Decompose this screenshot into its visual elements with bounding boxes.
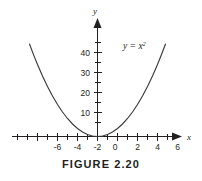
curve-equation-exponent: 2 <box>143 40 147 47</box>
x-tick-label-neg4: -4 <box>74 142 82 152</box>
y-tick-label-30: 30 <box>81 68 91 78</box>
x-tick-label-4: 4 <box>155 142 160 152</box>
curve-equation-base: y = x <box>122 41 143 51</box>
figure-caption: FIGURE 2.20 <box>0 158 202 170</box>
curve-equation-label: y = x2 <box>122 40 147 51</box>
y-tick-label-20: 20 <box>81 88 91 98</box>
y-axis-arrow-icon <box>94 18 102 28</box>
x-axis-label: x <box>186 132 191 142</box>
plot-area: -6 -4 -2 0 2 4 6 10 20 30 40 y = x2 y x <box>0 0 202 158</box>
y-tick-label-10: 10 <box>81 108 91 118</box>
parabola-plot: -6 -4 -2 0 2 4 6 10 20 30 40 y = x2 y x <box>0 0 202 158</box>
x-tick-label-6: 6 <box>175 142 180 152</box>
y-axis-label: y <box>92 6 97 16</box>
x-axis-arrow-icon <box>172 133 182 141</box>
x-tick-label-2: 2 <box>135 142 140 152</box>
x-tick-label-zero: 0 <box>113 142 118 152</box>
figure-container: -6 -4 -2 0 2 4 6 10 20 30 40 y = x2 y x … <box>0 0 202 181</box>
y-tick-label-40: 40 <box>81 48 91 58</box>
x-tick-label-neg2: -2 <box>94 142 102 152</box>
x-tick-label-neg6: -6 <box>54 142 62 152</box>
